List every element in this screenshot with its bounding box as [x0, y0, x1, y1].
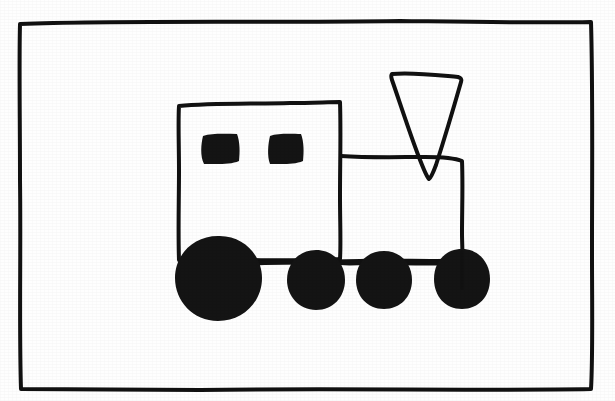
train-line-drawing [0, 0, 615, 401]
window-left [201, 134, 239, 164]
chassis-bar [253, 261, 462, 263]
paper-background [0, 0, 615, 401]
drawing-canvas: train-locomotive hand-drawn black ink on… [0, 0, 615, 401]
wheel-1 [175, 236, 262, 321]
wheel-2 [287, 250, 345, 310]
window-right [268, 134, 303, 164]
wheel-3 [356, 251, 412, 309]
